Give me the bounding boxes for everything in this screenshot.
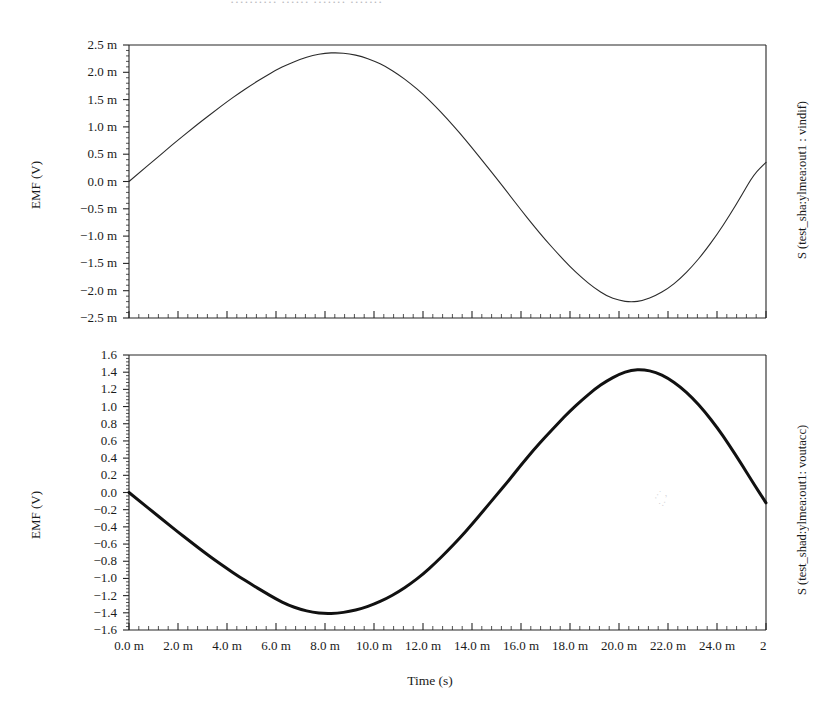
y-tick-label: 0.8 <box>55 417 117 430</box>
y-tick-label: −0.4 <box>55 520 117 533</box>
y-tick-label: −2.5 m <box>55 311 117 324</box>
y-axis-title-bottom: EMF (V) <box>28 480 46 550</box>
y-tick-label: 2.0 m <box>55 65 117 78</box>
plot-area-bottom <box>0 340 824 713</box>
y-tick-label: 1.6 <box>55 348 117 361</box>
trace-vindif <box>129 53 766 302</box>
y-tick-label: −1.2 <box>55 589 117 602</box>
x-axis-title: Time (s) <box>330 673 530 689</box>
y-tick-label: −1.4 <box>55 606 117 619</box>
trace-voutacc <box>129 370 766 614</box>
y-tick-label: 0.5 m <box>55 147 117 160</box>
right-axis-label-top: S (test_sha:ylmea:out1 : vindif) <box>795 70 813 290</box>
y-tick-label: −1.6 <box>55 623 117 636</box>
y-tick-label: −1.0 <box>55 571 117 584</box>
y-tick-label: 1.5 m <box>55 93 117 106</box>
y-tick-label: 0.6 <box>55 434 117 447</box>
y-tick-label: 1.0 <box>55 400 117 413</box>
y-tick-label: −0.2 <box>55 503 117 516</box>
y-tick-label: −2.0 m <box>55 284 117 297</box>
y-tick-label: 0.4 <box>55 451 117 464</box>
y-tick-label: 1.2 <box>55 382 117 395</box>
x-tick-label: 2 <box>760 639 784 652</box>
y-tick-label: −1.5 m <box>55 256 117 269</box>
y-tick-label: 2.5 m <box>55 38 117 51</box>
y-tick-label: −1.0 m <box>55 229 117 242</box>
y-axis-title-top: EMF (V) <box>28 150 46 220</box>
y-tick-label: 1.4 <box>55 365 117 378</box>
right-axis-label-bottom: S (test_shad:ylmea:out1: voutacc) <box>795 385 813 635</box>
y-tick-label: 0.2 <box>55 468 117 481</box>
chart-panel-top: EMF (V) S (test_sha:ylmea:out1 : vindif)… <box>0 0 824 340</box>
y-tick-label: −0.8 <box>55 554 117 567</box>
plot-area-top <box>0 0 824 340</box>
y-tick-label: −0.6 <box>55 537 117 550</box>
x-tick-label: 24.0 m <box>687 639 747 652</box>
chart-panel-bottom: EMF (V) S (test_shad:ylmea:out1: voutacc… <box>0 340 824 713</box>
figure-canvas: ·········· ······ ······· ······· EMF (V… <box>0 0 824 713</box>
y-tick-label: 0.0 m <box>55 175 117 188</box>
y-tick-label: 0.0 <box>55 486 117 499</box>
y-tick-label: −0.5 m <box>55 202 117 215</box>
y-tick-label: 1.0 m <box>55 120 117 133</box>
